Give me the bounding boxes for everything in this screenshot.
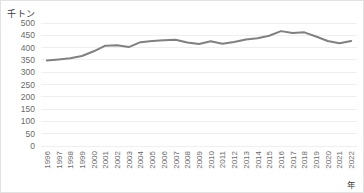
y-axis-tick-label: 200 <box>21 92 35 102</box>
x-axis-tick-label: 1996 <box>43 150 52 168</box>
y-axis-tick-label: 500 <box>21 18 35 28</box>
x-axis-tick-label: 1998 <box>66 150 75 168</box>
x-axis-tick-label: 2009 <box>195 150 204 168</box>
x-axis-tick-label: 1997 <box>55 150 64 168</box>
x-axis-tick-label: 2014 <box>254 150 263 168</box>
chart-canvas: 050100150200250300350400450500 199619971… <box>1 1 364 193</box>
y-axis-tick-label: 50 <box>26 129 36 139</box>
x-axis-tick-label: 2020 <box>324 150 333 168</box>
x-axis-title: 年 <box>347 178 356 190</box>
y-axis-tick-label: 250 <box>21 80 35 90</box>
x-axis-tick-label: 2002 <box>113 150 122 168</box>
y-axis-tick-label: 350 <box>21 55 35 65</box>
y-axis-tick-label: 0 <box>30 141 35 151</box>
y-axis-tick-label: 150 <box>21 104 35 114</box>
x-axis-tick-label: 2004 <box>136 150 145 168</box>
x-axis-tick-label: 2000 <box>90 150 99 168</box>
plot-area: 050100150200250300350400450500 199619971… <box>1 1 364 193</box>
y-axis-ticks: 050100150200250300350400450500 <box>21 18 35 151</box>
x-axis-tick-label: 2006 <box>160 150 169 168</box>
x-axis-tick-label: 2017 <box>289 150 298 168</box>
x-axis-tick-label: 2005 <box>148 150 157 168</box>
x-axis-tick-label: 2007 <box>172 150 181 168</box>
x-axis-tick-label: 2013 <box>242 150 251 168</box>
x-axis-tick-label: 2001 <box>101 150 110 168</box>
x-axis-tick-label: 2012 <box>230 150 239 168</box>
x-axis-tick-label: 2018 <box>300 150 309 168</box>
y-axis-tick-label: 300 <box>21 67 35 77</box>
x-axis-tick-label: 2019 <box>312 150 321 168</box>
y-axis-tick-label: 450 <box>21 30 35 40</box>
x-axis-tick-label: 2022 <box>347 150 356 168</box>
x-axis-tick-label: 2011 <box>218 150 227 168</box>
gridlines <box>41 23 357 146</box>
x-axis-tick-label: 2016 <box>277 150 286 168</box>
line-chart: 千トン 050100150200250300350400450500 19961… <box>0 0 364 193</box>
y-axis-tick-label: 400 <box>21 43 35 53</box>
x-axis-tick-label: 2003 <box>125 150 134 168</box>
x-axis-tick-label: 2010 <box>207 150 216 168</box>
x-axis-tick-label: 2015 <box>265 150 274 168</box>
y-axis-tick-label: 100 <box>21 116 35 126</box>
x-axis-tick-label: 1999 <box>78 150 87 168</box>
x-axis-tick-label: 2008 <box>183 150 192 168</box>
x-axis-tick-label: 2021 <box>335 150 344 168</box>
x-axis-ticks: 1996199719981999200020012002200320042005… <box>43 150 356 168</box>
